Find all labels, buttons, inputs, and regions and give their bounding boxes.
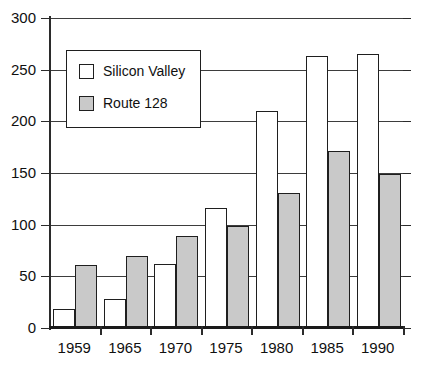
y-axis-tick	[41, 225, 50, 226]
x-axis-tick-label: 1965	[100, 340, 151, 356]
x-axis-tick-label: 1980	[251, 340, 302, 356]
y-axis-tick	[41, 18, 50, 19]
y-axis-right-tick	[403, 121, 411, 122]
bar-chart: 050100150200250300 195919651970197519801…	[0, 0, 422, 373]
y-axis-tick	[41, 70, 50, 71]
x-axis-tick	[100, 326, 102, 335]
bar	[104, 299, 126, 328]
y-axis-right-tick	[403, 173, 411, 174]
bar	[227, 226, 249, 328]
x-axis-tick	[352, 326, 354, 335]
y-axis-tick	[41, 173, 50, 174]
bar	[205, 208, 227, 328]
bar	[357, 54, 379, 328]
bar	[379, 174, 401, 328]
y-axis-right-tick	[403, 225, 411, 226]
y-axis-tick-label: 250	[0, 62, 36, 77]
x-axis-tick	[251, 326, 253, 335]
legend-entry-silicon-valley: Silicon Valley	[79, 64, 185, 79]
y-axis-tick-label: 150	[0, 165, 36, 180]
legend-entry-route-128: Route 128	[79, 96, 168, 111]
bar	[306, 56, 328, 328]
x-axis-tick	[201, 326, 203, 335]
y-axis-tick-label: 50	[0, 268, 36, 283]
y-axis-tick-label: 200	[0, 113, 36, 128]
y-axis-tick	[41, 121, 50, 122]
bar	[256, 111, 278, 328]
y-axis-right-tick	[403, 276, 411, 277]
legend-swatch-white-square-icon	[79, 64, 94, 79]
legend-label-route-128: Route 128	[103, 96, 168, 111]
bar	[278, 193, 300, 328]
bar	[154, 264, 176, 328]
x-axis-tick-label: 1970	[150, 340, 201, 356]
x-axis-tick	[302, 326, 304, 335]
x-axis-tick-label: 1985	[302, 340, 353, 356]
x-axis-tick	[150, 326, 152, 335]
bar	[75, 265, 97, 328]
legend-label-silicon-valley: Silicon Valley	[103, 64, 185, 79]
y-axis-tick-label: 100	[0, 217, 36, 232]
y-axis-tick	[41, 328, 50, 329]
legend-swatch-gray-square-icon	[79, 96, 94, 111]
bar	[328, 151, 350, 328]
y-axis-right-tick	[403, 18, 411, 19]
y-axis-tick	[41, 276, 50, 277]
x-axis-tick-label: 1990	[352, 340, 403, 356]
bar	[126, 256, 148, 328]
x-axis-tick-label: 1975	[201, 340, 252, 356]
legend: Silicon Valley Route 128	[66, 50, 201, 128]
y-axis-tick-label: 0	[0, 320, 36, 335]
bar	[176, 236, 198, 328]
y-axis-right-tick	[403, 70, 411, 71]
x-axis-tick-label: 1959	[49, 340, 100, 356]
x-axis-tick	[403, 326, 405, 335]
y-axis-tick-label: 300	[0, 10, 36, 25]
gridline	[49, 18, 403, 19]
